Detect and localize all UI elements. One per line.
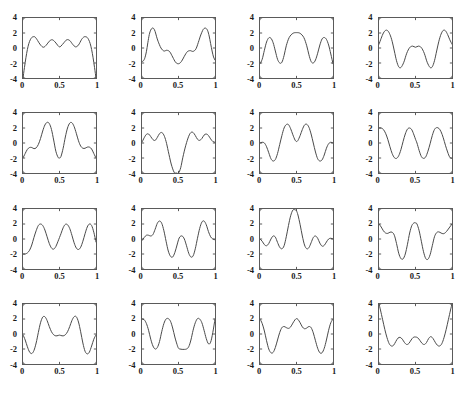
y-tick-label: 2 (13, 314, 17, 323)
x-tick-label: 1 (332, 367, 336, 376)
curve-canvas (142, 209, 215, 269)
subplot-16: -4-202400.51 (356, 298, 474, 393)
x-tick-label: 0.5 (291, 272, 302, 281)
subplot-1: -4-202400.51 (0, 12, 119, 107)
x-axis-ticklabels: 00.51 (141, 176, 216, 188)
x-tick-label: 0 (375, 176, 379, 185)
y-tick-label: 2 (368, 219, 372, 228)
data-curve (260, 318, 333, 353)
y-tick-label: 0 (368, 234, 372, 243)
y-tick-label: 2 (13, 219, 17, 228)
x-tick-label: 0 (257, 272, 261, 281)
subplot-5: -4-202400.51 (0, 107, 119, 202)
subplot-15: -4-202400.51 (237, 298, 356, 393)
y-tick-label: 0 (368, 330, 372, 339)
curve-canvas (260, 113, 333, 173)
subplot-12: -4-202400.51 (356, 203, 474, 298)
x-axis-ticklabels: 00.51 (378, 81, 453, 93)
y-tick-label: -4 (10, 75, 17, 84)
y-tick-label: 0 (250, 330, 254, 339)
x-tick-label: 0 (375, 272, 379, 281)
x-tick-label: 0.5 (173, 176, 184, 185)
y-tick-label: 4 (13, 203, 17, 212)
y-tick-label: 4 (131, 299, 135, 308)
x-tick-label: 1 (450, 367, 454, 376)
x-tick-label: 1 (95, 272, 99, 281)
y-tick-label: 2 (131, 28, 135, 37)
data-curve (142, 28, 215, 64)
curve-canvas (379, 209, 452, 269)
x-axis-ticklabels: 00.51 (259, 176, 334, 188)
plot-area (259, 112, 334, 174)
x-tick-label: 1 (332, 81, 336, 90)
x-tick-label: 0 (138, 176, 142, 185)
x-tick-label: 0.5 (291, 176, 302, 185)
y-tick-label: -2 (247, 155, 254, 164)
curve-canvas (23, 209, 96, 269)
y-tick-label: 4 (368, 13, 372, 22)
y-tick-label: -2 (365, 250, 372, 259)
subplot-3: -4-202400.51 (237, 12, 356, 107)
x-axis-ticklabels: 00.51 (259, 367, 334, 379)
x-axis-ticklabels: 00.51 (378, 367, 453, 379)
y-tick-label: 4 (368, 203, 372, 212)
y-tick-label: 2 (368, 124, 372, 133)
y-tick-label: 2 (13, 124, 17, 133)
y-axis-ticklabels: -4-2024 (0, 17, 19, 79)
x-tick-label: 0 (20, 367, 24, 376)
y-tick-label: 0 (250, 139, 254, 148)
curve-canvas (23, 113, 96, 173)
y-tick-label: 0 (250, 44, 254, 53)
y-tick-label: 4 (250, 108, 254, 117)
plot-area (378, 303, 453, 365)
data-curve (23, 123, 96, 159)
x-tick-label: 1 (213, 176, 217, 185)
y-tick-label: -2 (10, 155, 17, 164)
subplot-7: -4-202400.51 (237, 107, 356, 202)
curve-canvas (23, 304, 96, 364)
x-tick-label: 0 (20, 176, 24, 185)
y-tick-label: 4 (250, 299, 254, 308)
y-tick-label: 2 (131, 124, 135, 133)
x-axis-ticklabels: 00.51 (22, 272, 97, 284)
curve-canvas (142, 113, 215, 173)
subplot-10: -4-202400.51 (119, 203, 238, 298)
x-axis-ticklabels: 00.51 (259, 272, 334, 284)
y-tick-label: -4 (365, 265, 372, 274)
y-tick-label: 0 (131, 139, 135, 148)
curve-canvas (142, 18, 215, 78)
x-axis-ticklabels: 00.51 (378, 176, 453, 188)
subplot-6: -4-202400.51 (119, 107, 238, 202)
x-tick-label: 0 (257, 367, 261, 376)
y-axis-ticklabels: -4-2024 (119, 17, 138, 79)
y-axis-ticklabels: -4-2024 (0, 208, 19, 270)
y-tick-label: 0 (13, 139, 17, 148)
x-tick-label: 0 (138, 272, 142, 281)
data-curve (260, 33, 333, 64)
curve-canvas (260, 209, 333, 269)
y-tick-label: 0 (368, 139, 372, 148)
x-axis-ticklabels: 00.51 (22, 81, 97, 93)
x-tick-label: 0.5 (410, 272, 421, 281)
plot-area (141, 208, 216, 270)
x-tick-label: 0.5 (173, 81, 184, 90)
subplot-2: -4-202400.51 (119, 12, 238, 107)
x-tick-label: 1 (95, 367, 99, 376)
data-curve (142, 132, 215, 173)
curve-canvas (260, 18, 333, 78)
y-axis-ticklabels: -4-2024 (119, 208, 138, 270)
plot-area (378, 112, 453, 174)
y-axis-ticklabels: -4-2024 (237, 17, 256, 79)
y-tick-label: 2 (131, 219, 135, 228)
y-tick-label: -2 (365, 59, 372, 68)
y-tick-label: 4 (131, 13, 135, 22)
x-tick-label: 1 (213, 272, 217, 281)
y-tick-label: 2 (13, 28, 17, 37)
x-axis-ticklabels: 00.51 (141, 367, 216, 379)
y-axis-ticklabels: -4-2024 (356, 208, 375, 270)
y-tick-label: 0 (131, 44, 135, 53)
y-tick-label: 4 (368, 108, 372, 117)
x-tick-label: 1 (95, 81, 99, 90)
x-tick-label: 0.5 (291, 81, 302, 90)
x-axis-ticklabels: 00.51 (22, 367, 97, 379)
